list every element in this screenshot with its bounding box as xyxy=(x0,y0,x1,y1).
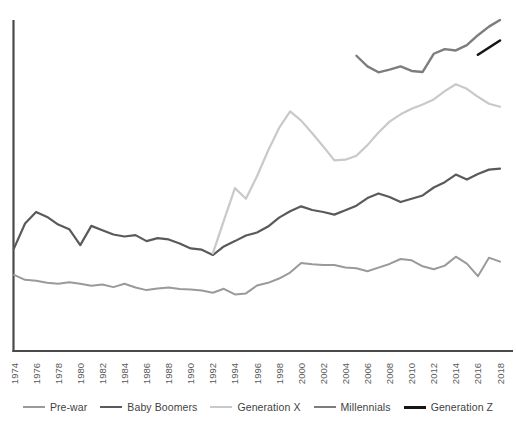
chart-legend: Pre-warBaby BoomersGeneration XMillennia… xyxy=(0,396,516,418)
x-tick-label: 1988 xyxy=(163,363,174,384)
legend-swatch-line-icon xyxy=(23,406,45,408)
legend-swatch-line-icon xyxy=(100,406,122,408)
legend-label: Generation X xyxy=(237,401,300,413)
legend-swatch-line-icon xyxy=(404,406,426,409)
x-tick-label: 1990 xyxy=(185,363,196,384)
x-tick-label: 2000 xyxy=(296,363,307,384)
x-tick-label: 1978 xyxy=(53,363,64,384)
series-line-baby-boomers xyxy=(14,169,500,255)
x-tick-label: 2008 xyxy=(384,363,395,384)
x-tick-label: 1986 xyxy=(141,363,152,384)
legend-label: Millennials xyxy=(341,401,391,413)
x-tick-label: 2018 xyxy=(495,363,506,384)
legend-item-generation-z[interactable]: Generation Z xyxy=(404,401,493,413)
legend-label: Generation Z xyxy=(431,401,493,413)
x-tick-label: 2014 xyxy=(450,363,461,384)
series-line-millennials xyxy=(356,20,500,72)
legend-item-pre-war[interactable]: Pre-war xyxy=(23,401,87,413)
x-tick-label: 1994 xyxy=(229,363,240,384)
legend-label: Baby Boomers xyxy=(127,401,197,413)
x-tick-label: 1980 xyxy=(75,363,86,384)
series-line-pre-war xyxy=(14,257,500,295)
plot-area: 1974197619781980198219841986198819901992… xyxy=(0,0,516,396)
x-tick-label: 2004 xyxy=(340,363,351,384)
x-tick-label: 1976 xyxy=(31,363,42,384)
legend-item-baby-boomers[interactable]: Baby Boomers xyxy=(100,401,197,413)
series-line-generation-z xyxy=(478,41,500,55)
x-tick-labels: 1974197619781980198219841986198819901992… xyxy=(9,363,506,384)
x-tick-label: 2012 xyxy=(428,363,439,384)
x-tick-label: 2016 xyxy=(472,363,483,384)
legend-item-generation-x[interactable]: Generation X xyxy=(210,401,300,413)
x-tick-label: 1974 xyxy=(9,363,20,384)
legend-swatch-line-icon xyxy=(314,406,336,408)
x-tick-label: 1984 xyxy=(119,363,130,384)
generation-line-chart: 1974197619781980198219841986198819901992… xyxy=(0,0,516,424)
x-tick-label: 1996 xyxy=(252,363,263,384)
x-tick-label: 2006 xyxy=(362,363,373,384)
legend-item-millennials[interactable]: Millennials xyxy=(314,401,391,413)
series-line-generation-x xyxy=(213,84,500,253)
legend-label: Pre-war xyxy=(50,401,87,413)
x-tick-label: 1998 xyxy=(274,363,285,384)
x-tick-label: 1992 xyxy=(207,363,218,384)
x-tick-label: 2002 xyxy=(318,363,329,384)
series-group xyxy=(14,20,500,294)
legend-swatch-line-icon xyxy=(210,406,232,408)
x-tick-label: 1982 xyxy=(97,363,108,384)
x-tick-label: 2010 xyxy=(406,363,417,384)
